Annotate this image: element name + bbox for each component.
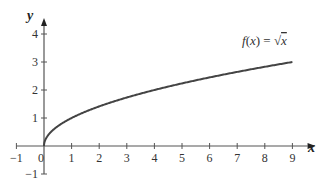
- function-label: f(x) = √x: [242, 33, 287, 48]
- function-paren-close: ) =: [256, 33, 274, 48]
- ticks: −10123456789−11234: [10, 27, 295, 181]
- x-tick-label: 8: [262, 151, 268, 165]
- sqrt-curve: [44, 62, 292, 146]
- x-tick-label: −1: [10, 151, 23, 165]
- y-tick-label: 4: [32, 27, 38, 41]
- x-tick-label: 6: [207, 151, 213, 165]
- y-tick-label: 2: [32, 83, 38, 97]
- y-tick-label: 3: [32, 55, 38, 69]
- y-tick-label: 1: [32, 111, 38, 125]
- x-tick-label: 3: [124, 151, 130, 165]
- x-tick-label: 4: [151, 151, 157, 165]
- x-axis-label: x: [307, 140, 315, 155]
- x-tick-label: 1: [69, 151, 75, 165]
- x-tick-label: 7: [234, 151, 240, 165]
- x-tick-label: 5: [179, 151, 185, 165]
- y-axis-arrow-icon: [41, 18, 47, 26]
- sqrt-function-chart: −10123456789−11234 x y f(x) = √x: [0, 0, 325, 190]
- y-tick-label: −1: [25, 167, 38, 181]
- x-tick-label: 9: [289, 151, 295, 165]
- x-tick-label: 0: [38, 151, 44, 165]
- function-sqrt-arg: x: [280, 33, 287, 48]
- x-tick-label: 2: [96, 151, 102, 165]
- y-axis-label: y: [25, 8, 34, 23]
